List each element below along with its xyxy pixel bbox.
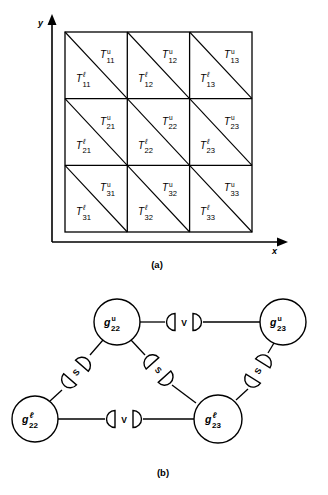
connector-head-left [107, 411, 115, 428]
node-gu23[interactable]: g u 23 [260, 299, 306, 345]
cell-label-23-lower: T ℓ 23 [200, 137, 215, 156]
connector-head-right [193, 314, 202, 331]
cell-label-21-lower: T ℓ 21 [76, 137, 91, 156]
t-sub: 32 [145, 213, 153, 222]
edge-label-s-middle: S [153, 365, 164, 376]
edge-gu23-gl23: S [236, 343, 274, 400]
t-sub: 22 [145, 146, 153, 155]
g-sup: u [112, 315, 116, 322]
connector-head-left [167, 314, 176, 331]
t-sub: 23 [231, 122, 239, 131]
t-sub: 21 [107, 122, 115, 131]
panel-a-caption: (a) [151, 259, 163, 270]
node-gu22[interactable]: g u 22 [94, 299, 140, 345]
g-base: g [21, 413, 29, 425]
t-sup: u [169, 48, 173, 55]
edge-label-s-right: S [252, 366, 264, 376]
t-sub: 22 [169, 122, 177, 131]
t-sup: ℓ [206, 70, 210, 79]
t-sup: ℓ [144, 70, 148, 79]
edge-gu22-gu23: V [139, 314, 260, 331]
panel-b-caption: (b) [157, 467, 169, 478]
t-sup: ℓ [144, 203, 148, 212]
t-sub: 33 [207, 213, 215, 222]
t-sub: 33 [231, 189, 239, 198]
y-axis-label: y [37, 18, 44, 28]
node-gl23[interactable]: g ℓ 23 [194, 395, 242, 443]
cell-label-21-upper: T u 21 [100, 114, 115, 131]
cell-label-31-lower: T ℓ 31 [76, 203, 91, 222]
t-sup: u [231, 114, 235, 121]
cell-label-22-lower: T ℓ 22 [138, 137, 153, 156]
t-sup: u [107, 114, 111, 121]
t-sub: 31 [107, 189, 115, 198]
t-sub: 12 [169, 56, 177, 65]
g-base: g [103, 316, 111, 328]
t-sup: u [107, 181, 111, 188]
t-sup: ℓ [82, 137, 86, 146]
cell-label-13-lower: T ℓ 13 [200, 70, 215, 89]
cell-label-11-lower: T ℓ 11 [76, 70, 90, 89]
edge-gl22-gl23: V [58, 411, 194, 428]
t-sub: 12 [145, 80, 153, 89]
x-axis: x [52, 238, 288, 257]
t-sup: ℓ [82, 203, 86, 212]
cell-label-33-upper: T u 33 [224, 181, 239, 198]
cell-label-33-lower: T ℓ 33 [200, 203, 215, 222]
y-axis: y [37, 14, 57, 242]
g-base: g [269, 316, 277, 328]
cell-label-12-upper: T u 12 [162, 48, 177, 65]
cell-label-32-upper: T u 32 [162, 181, 177, 198]
edge-label-s-left: S [70, 367, 81, 378]
edge-label-v-top: V [181, 318, 187, 328]
cell-label-32-lower: T ℓ 32 [138, 203, 153, 222]
t-sup: ℓ [144, 137, 148, 146]
g-base: g [204, 413, 212, 425]
g-sub: 23 [277, 324, 286, 333]
edge-label-v-bottom: V [121, 415, 127, 425]
t-sub: 21 [83, 146, 91, 155]
g-sub: 22 [29, 421, 38, 430]
g-sup: u [278, 315, 282, 322]
t-sup: ℓ [82, 70, 86, 79]
t-sup: u [107, 48, 111, 55]
t-sub: 32 [169, 189, 177, 198]
node-gl22[interactable]: g ℓ 22 [12, 396, 58, 442]
t-sub: 13 [207, 80, 215, 89]
cell-diagonals [65, 32, 252, 232]
t-sup: ℓ [206, 137, 210, 146]
connector-head-right [133, 411, 142, 428]
t-sup: u [169, 114, 173, 121]
t-sup: u [231, 181, 235, 188]
t-sup: ℓ [206, 203, 210, 212]
g-sub: 23 [212, 421, 221, 430]
t-sub: 31 [83, 213, 91, 222]
cell-label-31-upper: T u 31 [100, 181, 115, 198]
cell-label-12-lower: T ℓ 12 [138, 70, 153, 89]
cell-label-13-upper: T u 13 [224, 48, 239, 65]
t-sup: u [169, 181, 173, 188]
mesh-grid [65, 32, 252, 232]
panel-a: y x [37, 14, 288, 270]
cell-label-22-upper: T u 22 [162, 114, 177, 131]
t-sub: 13 [231, 56, 239, 65]
x-axis-label: x [271, 246, 278, 256]
t-sup: u [231, 48, 235, 55]
g-sub: 22 [111, 324, 120, 333]
panel-b: V V S [12, 299, 306, 478]
figure-svg: y x [0, 0, 328, 495]
edge-gu22-gl22: S [50, 340, 103, 401]
t-sub: 23 [207, 146, 215, 155]
cell-label-23-upper: T u 23 [224, 114, 239, 131]
cell-label-11-upper: T u 11 [100, 48, 114, 65]
edge-gu22-gl23: S [131, 340, 196, 403]
t-sub: 11 [107, 56, 115, 65]
t-sub: 11 [83, 80, 91, 89]
figure-root: y x [0, 0, 328, 495]
